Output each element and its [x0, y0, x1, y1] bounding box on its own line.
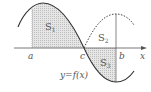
area-diagram: S1 S2 S3 a c b x y=f(x) — [0, 0, 151, 92]
label-s2: S2 — [98, 32, 109, 44]
curve-reflected-dashed — [84, 14, 134, 48]
label-b: b — [119, 51, 125, 61]
label-a: a — [28, 51, 33, 61]
label-c: c — [80, 51, 85, 61]
label-x-axis: x — [140, 51, 145, 61]
function-label: y=f(x) — [59, 70, 89, 80]
x-axis-arrow-icon — [141, 46, 147, 50]
